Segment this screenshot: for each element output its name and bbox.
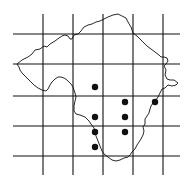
occurrence-dot [92, 114, 98, 120]
occurrence-dot [152, 99, 158, 105]
occurrence-dot [122, 114, 128, 120]
occurrence-dot [92, 144, 98, 150]
occurrence-dot [92, 84, 98, 90]
occurrence-dot [92, 129, 98, 135]
occurrence-dot [122, 129, 128, 135]
occurrence-dot [122, 99, 128, 105]
distribution-map [0, 0, 188, 186]
